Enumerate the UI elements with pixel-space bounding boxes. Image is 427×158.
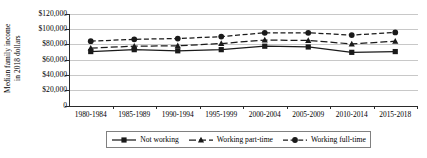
- y-axis-title-line-1: Median family income: [3, 8, 12, 108]
- chart-figure: Median family income in 2018 dollars 0$2…: [0, 0, 427, 158]
- data-point-circle: [349, 32, 355, 38]
- x-tick-mark: [287, 106, 288, 109]
- y-tick-label: $80,000: [21, 40, 67, 48]
- x-tick-label: 2015-2018: [365, 110, 425, 119]
- y-tick-mark: [65, 14, 69, 15]
- y-tick-label: $20,000: [21, 86, 67, 94]
- y-tick-label: $40,000: [21, 71, 67, 79]
- legend-label: Working part-time: [217, 135, 273, 144]
- y-tick-mark: [65, 90, 69, 91]
- y-axis-tick-labels: 0$20,000$40,000$60,000$80,000$100,000$12…: [19, 0, 67, 158]
- x-tick-mark: [330, 106, 331, 109]
- legend-item-working-part-time[interactable]: Working part-time: [188, 135, 273, 145]
- legend-swatch-circle: [282, 135, 308, 145]
- x-tick-mark: [417, 106, 418, 109]
- legend-label: Working full-time: [311, 135, 366, 144]
- y-tick-label: $60,000: [21, 56, 67, 64]
- data-point-circle: [218, 33, 224, 39]
- legend-swatch-square: [111, 135, 137, 145]
- data-point-circle: [262, 29, 268, 35]
- y-tick-label: $100,000: [21, 25, 67, 33]
- legend-label: Not working: [140, 135, 179, 144]
- y-tick-mark: [65, 106, 69, 107]
- y-tick-label: 0: [21, 102, 67, 110]
- y-tick-mark: [65, 75, 69, 76]
- data-point-square: [349, 49, 354, 54]
- legend-swatch-triangle: [188, 135, 214, 145]
- x-tick-mark: [113, 106, 114, 109]
- x-tick-mark: [200, 106, 201, 109]
- x-tick-mark: [156, 106, 157, 109]
- data-point-circle: [305, 29, 311, 35]
- series-line: [91, 40, 396, 48]
- y-tick-label: $120,000: [21, 10, 67, 18]
- data-point-square: [175, 48, 180, 53]
- data-point-circle: [392, 29, 398, 35]
- y-tick-mark: [65, 29, 69, 30]
- series-layer: [69, 14, 417, 106]
- data-point-square: [393, 48, 398, 53]
- x-axis-tick-labels: 1980-19841985-19891990-19941995-19992000…: [69, 110, 417, 124]
- data-point-square: [306, 44, 311, 49]
- y-tick-mark: [65, 60, 69, 61]
- data-point-square: [262, 43, 267, 48]
- legend-item-working-full-time[interactable]: Working full-time: [282, 135, 366, 145]
- y-tick-mark: [65, 44, 69, 45]
- data-point-circle: [292, 137, 298, 143]
- x-tick-mark: [374, 106, 375, 109]
- data-point-circle: [88, 38, 94, 44]
- chart-legend: Not workingWorking part-timeWorking full…: [106, 131, 371, 148]
- data-point-circle: [175, 35, 181, 41]
- data-point-square: [219, 47, 224, 52]
- data-point-square: [122, 137, 127, 142]
- x-tick-mark: [243, 106, 244, 109]
- legend-item-not-working[interactable]: Not working: [111, 135, 179, 145]
- data-point-circle: [131, 36, 137, 42]
